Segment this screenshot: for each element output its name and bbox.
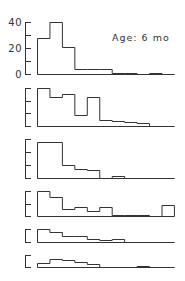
y-axis xyxy=(25,139,31,179)
histogram-panel-6 xyxy=(25,255,174,268)
histogram-bars xyxy=(38,260,175,268)
y-tick-label: 40 xyxy=(8,17,22,28)
histogram-panel-4 xyxy=(25,191,174,217)
y-axis xyxy=(25,229,31,243)
histogram-panel-5 xyxy=(25,229,174,243)
histogram-panel-2 xyxy=(25,88,174,127)
histogram-panel-3 xyxy=(25,139,174,179)
y-axis xyxy=(25,88,31,127)
histogram-bars xyxy=(38,143,175,179)
y-tick-label: 0 xyxy=(15,69,22,80)
histogram-bars xyxy=(38,23,175,75)
histogram-panel-1: 40200 xyxy=(8,17,174,80)
histogram-bars xyxy=(38,192,175,217)
age-annotation: Age: 6 mo xyxy=(112,32,170,43)
histogram-panels: 40200 xyxy=(8,17,174,268)
y-tick-label: 20 xyxy=(8,43,22,54)
histogram-bars xyxy=(38,230,175,243)
y-axis xyxy=(25,255,31,268)
histogram-bars xyxy=(38,89,175,127)
y-axis xyxy=(25,191,31,217)
stacked-histogram-chart: 40200 Age: 6 mo xyxy=(0,0,185,281)
y-axis xyxy=(25,22,31,75)
